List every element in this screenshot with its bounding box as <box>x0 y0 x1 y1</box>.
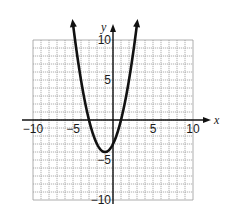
curve-arrow-left-icon <box>70 19 77 27</box>
x-tick-label: −5 <box>66 122 80 136</box>
x-axis-arrow-icon <box>203 117 211 123</box>
x-tick-label: 10 <box>186 122 200 136</box>
y-tick-label: −10 <box>91 193 112 204</box>
y-axis-arrow-icon <box>110 24 116 32</box>
y-tick-label: 10 <box>98 33 112 47</box>
coordinate-plane: x y −10−5510105−5−10 <box>0 0 226 204</box>
y-axis-label: y <box>100 20 107 34</box>
x-axis-label: x <box>213 113 220 127</box>
y-tick-label: −5 <box>97 153 111 167</box>
x-tick-label: 5 <box>150 122 157 136</box>
curve-arrow-right-icon <box>133 19 140 27</box>
x-tick-label: −10 <box>23 122 44 136</box>
y-tick-label: 5 <box>104 73 111 87</box>
